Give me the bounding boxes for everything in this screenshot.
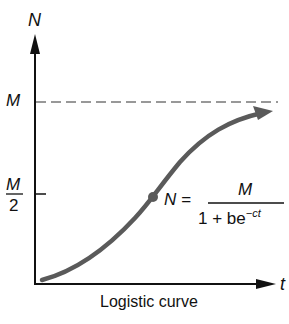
equation-lhs-text: N =: [164, 190, 191, 209]
equation-exponent: −ct: [246, 207, 261, 219]
curve-arrow-icon: [253, 106, 273, 120]
equation-lhs: N =: [164, 190, 191, 210]
y-axis-arrow-icon: [30, 34, 40, 54]
logistic-diagram: [0, 0, 289, 324]
tick-label-half-numerator: M: [6, 175, 20, 195]
x-axis-arrow-icon: [256, 279, 276, 289]
diagram-caption: Logistic curve: [100, 293, 198, 311]
inflection-point: [148, 192, 158, 202]
equation-denominator: 1 + be−ct: [198, 207, 261, 229]
equation-numerator: M: [238, 180, 252, 200]
tick-label-m: M: [6, 91, 20, 111]
tick-label-half-denominator: 2: [9, 196, 18, 216]
equation-denominator-base: 1 + be: [198, 209, 246, 228]
x-axis-label: t: [280, 274, 285, 295]
y-axis-label: N: [28, 10, 41, 31]
